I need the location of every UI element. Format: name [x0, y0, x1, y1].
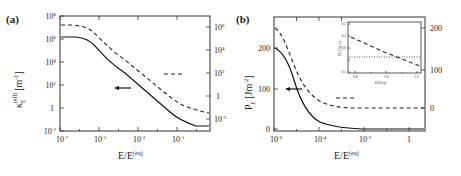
svg-text:0: 0 — [266, 125, 270, 134]
svg-text:0.0: 0.0 — [342, 46, 347, 50]
svg-text:0.1: 0.1 — [342, 34, 347, 38]
panel-a-right-tick-labels: 10-2 1 102 104 106 — [214, 23, 227, 125]
panel-a-x-ticks — [60, 16, 197, 131]
panel-a-legend-arrow-solid — [114, 86, 131, 90]
panel-b: (b) 0 100 200 0 100 200 — [236, 13, 442, 161]
svg-text:10-6: 10-6 — [270, 135, 283, 145]
panel-a-x-tick-labels: 10-7 10-5 10-3 10-1 — [56, 135, 185, 145]
panel-a-left-ticks — [60, 16, 64, 131]
svg-text:10-1: 10-1 — [172, 135, 185, 145]
panel-b-right-ticks — [421, 28, 425, 108]
inset-x-label: E/E(eq) — [375, 81, 387, 85]
svg-text:200: 200 — [430, 24, 442, 33]
panel-a-y-label: κE(eff)[m-1] — [12, 71, 26, 108]
svg-text:10-2: 10-2 — [359, 135, 372, 145]
svg-text:1.2: 1.2 — [414, 75, 419, 79]
svg-text:106: 106 — [214, 23, 225, 33]
inset-frame — [348, 22, 421, 73]
panel-b-x-tick-labels: 10-6 10-4 10-2 1 — [270, 135, 411, 145]
panel-a-solid-curve — [61, 37, 209, 126]
svg-text:10-3: 10-3 — [133, 135, 146, 145]
panel-b-right-tick-labels: 0 100 200 — [430, 24, 442, 113]
panel-b-inset: 0.2 0.1 0.0 0.1 0.8 1.0 1.2 E/E(eq) PE [… — [338, 22, 421, 85]
svg-text:1.0: 1.0 — [384, 75, 389, 79]
figure: (a) 10-2 1 102 104 106 108 — [0, 0, 461, 176]
panel-b-x-label: E/E(eq) — [334, 150, 359, 161]
svg-text:100: 100 — [430, 66, 442, 75]
panel-a-left-tick-labels: 10-2 1 102 104 106 108 — [44, 12, 57, 137]
svg-text:1: 1 — [50, 104, 54, 113]
svg-text:10-2: 10-2 — [44, 127, 57, 137]
svg-text:10-4: 10-4 — [314, 135, 327, 145]
svg-text:104: 104 — [46, 58, 57, 68]
panel-a-label: (a) — [6, 13, 19, 26]
svg-text:10-2: 10-2 — [214, 115, 227, 125]
svg-text:108: 108 — [46, 12, 57, 22]
svg-text:10-7: 10-7 — [56, 135, 69, 145]
svg-text:104: 104 — [214, 46, 225, 56]
panel-b-left-tick-labels: 0 100 200 — [258, 44, 270, 134]
panel-b-label: (b) — [236, 13, 250, 26]
svg-text:0.8: 0.8 — [353, 75, 358, 79]
panel-b-legend-arrow-solid — [285, 87, 302, 91]
svg-text:100: 100 — [258, 85, 270, 94]
svg-text:102: 102 — [214, 69, 225, 79]
panel-a-right-ticks — [206, 27, 210, 119]
svg-text:0: 0 — [430, 104, 434, 113]
svg-text:1: 1 — [407, 135, 411, 144]
svg-text:1: 1 — [216, 92, 220, 101]
svg-text:200: 200 — [258, 44, 270, 53]
svg-text:106: 106 — [46, 35, 57, 45]
panel-b-left-ticks — [274, 48, 278, 129]
svg-text:102: 102 — [46, 81, 57, 91]
panel-a-x-label: E/E(eq) — [118, 150, 143, 161]
panel-a-frame — [60, 16, 210, 131]
svg-text:0.1: 0.1 — [342, 70, 347, 74]
panel-a: (a) 10-2 1 102 104 106 108 — [6, 12, 227, 162]
inset-y-label: PE [Jm-2] — [338, 41, 342, 56]
svg-text:10-5: 10-5 — [94, 135, 107, 145]
panel-b-y-label: PE[Jm-2] — [243, 75, 256, 110]
svg-text:0.2: 0.2 — [342, 22, 347, 26]
